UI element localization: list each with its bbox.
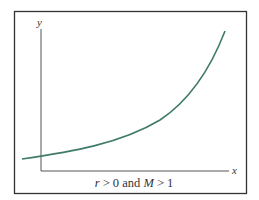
y-axis-label: y bbox=[36, 16, 42, 28]
diagram-frame bbox=[15, 12, 247, 194]
x-axis-label: x bbox=[231, 164, 237, 176]
condition-caption: r > 0 and M > 1 bbox=[95, 176, 174, 190]
diagram-canvas: y x r > 0 and M > 1 bbox=[0, 0, 259, 200]
